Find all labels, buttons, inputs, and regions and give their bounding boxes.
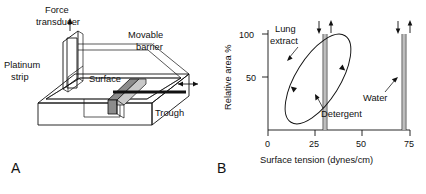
ytick-label-100: 100 — [239, 30, 254, 40]
detergent-down-arrow-icon — [317, 21, 322, 34]
panel-b-chart: 100 50 0 25 50 75 Surface tension (dynes… — [213, 0, 426, 194]
detergent-up-arrow-icon — [329, 20, 334, 33]
double-headed-arrow-icon — [178, 82, 198, 87]
lung-extract-leader-arrow-icon — [287, 55, 293, 61]
ytick-label-50: 50 — [246, 73, 256, 83]
platinum-strip — [63, 31, 83, 92]
detergent-annotation: Detergent — [315, 94, 362, 119]
water-down-arrow-icon — [396, 21, 401, 34]
water-label: Water — [363, 93, 387, 103]
platinum-strip-label-line1: Platinum — [4, 60, 40, 70]
water-leader-arrow-icon — [392, 77, 398, 83]
xtick-label-0: 0 — [265, 139, 270, 149]
xtick-label-25: 25 — [309, 139, 319, 149]
lung-extract-annotation: Lung extract — [270, 24, 298, 61]
water-up-arrow-icon — [408, 20, 413, 33]
surface-label: Surface — [89, 74, 121, 84]
detergent-leader-arrow-icon — [315, 94, 320, 101]
detergent-label: Detergent — [321, 109, 362, 119]
trough-diagram-svg: Force transducer Platinum strip Movable … — [0, 0, 213, 194]
surface-tension-chart-svg: 100 50 0 25 50 75 Surface tension (dynes… — [213, 0, 426, 194]
y-axis-title: Relative area % — [223, 44, 233, 110]
lung-extract-label-line1: Lung — [275, 24, 296, 34]
platinum-strip-label-line2: strip — [11, 72, 29, 82]
force-transducer-label-line1: Force — [45, 5, 69, 15]
x-axis-title: Surface tension (dynes/cm) — [260, 155, 373, 165]
panel-a-diagram: Force transducer Platinum strip Movable … — [0, 0, 213, 194]
lung-extract-label-line2: extract — [270, 36, 298, 46]
water-band — [396, 20, 413, 130]
movable-barrier — [108, 79, 146, 118]
movable-barrier-label-line2: barrier — [136, 42, 163, 52]
trough-label: Trough — [155, 108, 184, 118]
loop-arrow-compression — [338, 64, 346, 73]
xtick-label-75: 75 — [404, 139, 414, 149]
panel-a-letter: A — [11, 160, 20, 176]
loop-arrow-expansion — [290, 84, 298, 93]
panel-b-letter: B — [217, 160, 226, 176]
movable-barrier-label-line1: Movable — [128, 30, 163, 40]
force-transducer-label-line2: transducer — [36, 17, 80, 27]
xtick-label-50: 50 — [356, 139, 366, 149]
water-annotation: Water — [363, 77, 398, 103]
